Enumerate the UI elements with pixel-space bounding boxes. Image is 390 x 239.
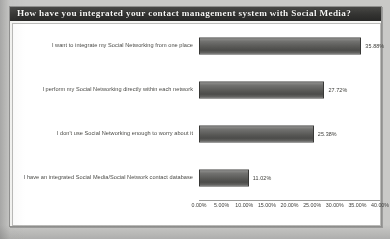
x-axis-tick-label: 0.00% (191, 202, 206, 208)
chart-card: How have you integrated your contact man… (9, 6, 382, 227)
scanned-page-background: How have you integrated your contact man… (0, 0, 390, 239)
chart-row: I have an integrated Social Media/Social… (13, 156, 199, 200)
bar (199, 170, 249, 187)
x-axis-tick-label: 20.00% (281, 202, 299, 208)
bar-value-label: 25.38% (318, 131, 337, 137)
chart-title: How have you integrated your contact man… (17, 8, 351, 18)
bar (199, 82, 324, 99)
x-axis-line (199, 200, 380, 201)
bar-row: 11.02% (199, 156, 380, 200)
x-axis-tick-label: 35.00% (348, 202, 366, 208)
bar-row: 27.72% (199, 68, 380, 112)
bar-value-label: 35.88% (365, 43, 384, 49)
category-label: I want to integrate my Social Networking… (21, 42, 193, 50)
bar (199, 38, 361, 55)
x-axis-tick-label: 30.00% (326, 202, 344, 208)
category-label: I perform my Social Networking directly … (21, 86, 193, 94)
bars-region: 35.88% 27.72% 25.38% 11.02% (199, 24, 380, 200)
category-label: I don't use Social Networking enough to … (21, 130, 193, 138)
x-axis-tick-label: 15.00% (258, 202, 276, 208)
x-axis-tick-labels: 0.00%5.00%10.00%15.00%20.00%25.00%30.00%… (199, 202, 380, 214)
chart-title-band: How have you integrated your contact man… (10, 7, 381, 21)
chart-row: I want to integrate my Social Networking… (13, 24, 199, 68)
bar (199, 126, 314, 143)
bar-row: 25.38% (199, 112, 380, 156)
x-axis-tick-label: 5.00% (214, 202, 229, 208)
x-axis-tick-label: 25.00% (303, 202, 321, 208)
bar-row: 35.88% (199, 24, 380, 68)
category-label: I have an integrated Social Media/Social… (21, 174, 193, 182)
category-label-column: I want to integrate my Social Networking… (13, 24, 199, 200)
x-axis-tick-label: 10.00% (235, 202, 253, 208)
chart-row: I don't use Social Networking enough to … (13, 112, 199, 156)
bar-value-label: 27.72% (328, 87, 347, 93)
x-axis-tick-label: 40.00% (371, 202, 389, 208)
chart-row: I perform my Social Networking directly … (13, 68, 199, 112)
chart-plot-area: I want to integrate my Social Networking… (12, 23, 381, 226)
bar-value-label: 11.02% (253, 175, 271, 181)
